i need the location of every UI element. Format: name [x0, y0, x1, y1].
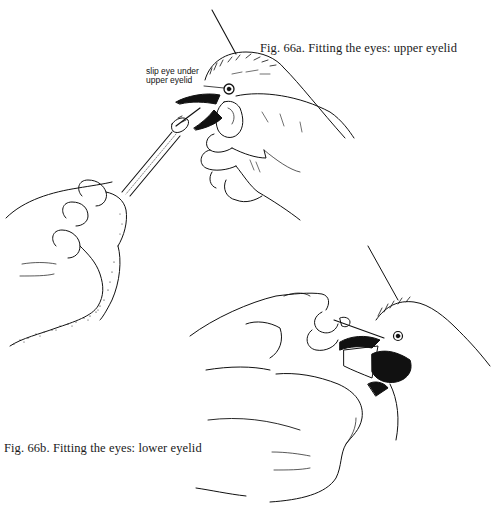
callout-line-2: upper eyelid [146, 76, 199, 85]
callout-slip-eye: slip eye under upper eyelid [146, 67, 199, 85]
figure-66a-illustration [6, 10, 354, 346]
stipple-shading [13, 214, 122, 345]
figure-66b-illustration [190, 246, 490, 502]
illustration-canvas [0, 0, 499, 507]
figure-66a-caption: Fig. 66a. Fitting the eyes: upper eyelid [260, 41, 457, 56]
figure-page: slip eye under upper eyelid Fig. 66a. Fi… [0, 0, 499, 507]
figure-66b-caption: Fig. 66b. Fitting the eyes: lower eyelid [4, 441, 202, 456]
